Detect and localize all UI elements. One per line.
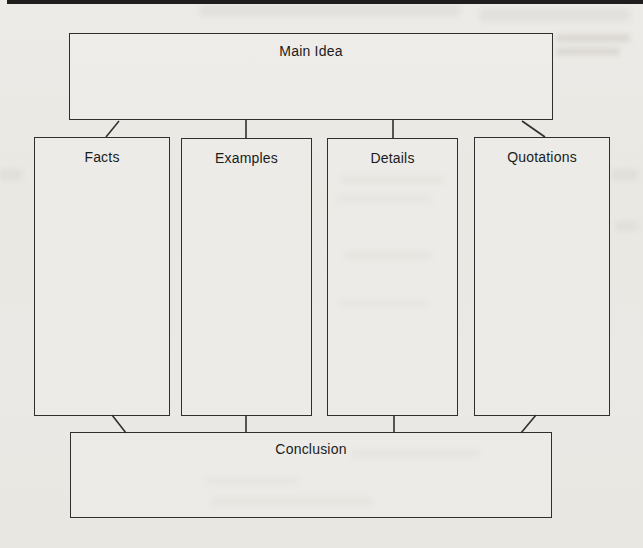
bleed-through-smudge bbox=[612, 170, 638, 180]
details-label: Details bbox=[328, 150, 457, 166]
connector-quotations-conclusion bbox=[521, 415, 536, 433]
bleed-through-smudge bbox=[480, 9, 630, 21]
bleed-through-smudge bbox=[0, 170, 22, 180]
bleed-through-smudge bbox=[556, 34, 630, 42]
bleed-through-smudge bbox=[616, 222, 638, 230]
facts-box: Facts bbox=[34, 137, 170, 416]
quotations-label: Quotations bbox=[475, 149, 609, 165]
quotations-box: Quotations bbox=[474, 137, 610, 416]
main-idea-box: Main Idea bbox=[69, 33, 553, 120]
main-idea-label: Main Idea bbox=[70, 43, 552, 59]
examples-label: Examples bbox=[182, 150, 311, 166]
page-top-rule bbox=[7, 0, 643, 4]
connector-mainidea-facts bbox=[106, 121, 119, 137]
bleed-through-smudge bbox=[200, 5, 460, 16]
connector-facts-conclusion bbox=[112, 415, 126, 433]
bleed-through-smudge bbox=[556, 48, 620, 55]
connector-mainidea-quotations bbox=[522, 121, 545, 137]
conclusion-box: Conclusion bbox=[70, 432, 552, 518]
facts-label: Facts bbox=[35, 149, 169, 165]
conclusion-label: Conclusion bbox=[71, 441, 551, 457]
scanned-page: Main Idea Facts Examples Details Quotati… bbox=[0, 0, 643, 548]
details-box: Details bbox=[327, 138, 458, 416]
examples-box: Examples bbox=[181, 138, 312, 416]
